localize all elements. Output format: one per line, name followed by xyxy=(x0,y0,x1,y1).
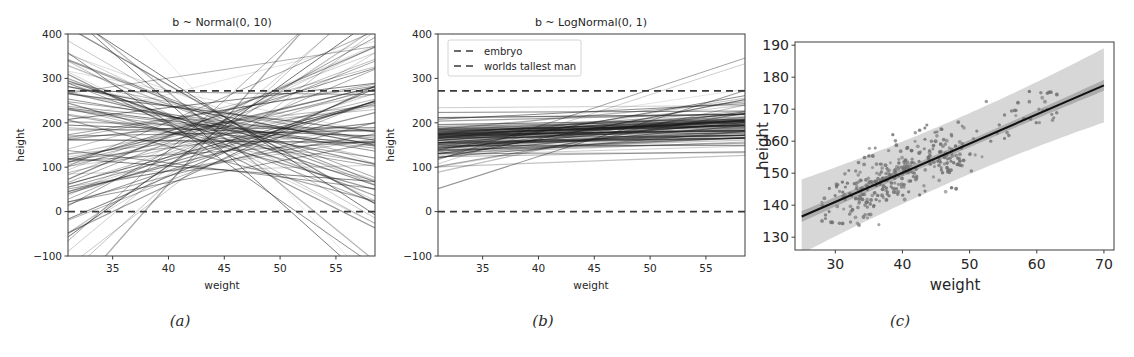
scatter-point xyxy=(893,169,897,173)
scatter-point xyxy=(914,140,917,143)
scatter-point xyxy=(1040,96,1044,100)
prior-lines-lognormal xyxy=(438,58,745,189)
svg-text:50: 50 xyxy=(643,262,656,274)
svg-text:100: 100 xyxy=(412,161,432,173)
scatter-point xyxy=(946,157,949,160)
scatter-point xyxy=(887,194,890,197)
scatter-point xyxy=(970,169,974,173)
scatter-point xyxy=(939,161,942,164)
panel-a-x-ticks: 3540455055 xyxy=(106,256,343,274)
svg-text:70: 70 xyxy=(1095,256,1113,272)
panel-b-legend[interactable]: embryo worlds tallest man xyxy=(448,40,581,76)
scatter-point xyxy=(918,129,922,133)
svg-text:50: 50 xyxy=(961,256,979,272)
scatter-point xyxy=(849,210,853,214)
legend-label-embryo: embryo xyxy=(484,46,522,57)
scatter-point xyxy=(923,168,927,172)
scatter-point xyxy=(854,197,857,200)
scatter-point xyxy=(968,153,972,157)
caption-b: (b) xyxy=(483,312,603,330)
scatter-point xyxy=(876,194,880,198)
scatter-point xyxy=(835,205,839,209)
panel-a-title: b ~ Normal(0, 10) xyxy=(172,16,272,29)
scatter-point xyxy=(972,137,975,140)
scatter-point xyxy=(844,185,847,188)
scatter-point xyxy=(1055,111,1059,115)
scatter-point xyxy=(838,190,841,193)
scatter-point xyxy=(864,200,868,204)
panel-c-ylabel: height xyxy=(756,122,772,170)
svg-text:130: 130 xyxy=(762,229,789,245)
scatter-point xyxy=(867,176,871,180)
scatter-point xyxy=(958,152,962,156)
scatter-point xyxy=(1052,116,1055,119)
scatter-point xyxy=(897,158,900,161)
scatter-point xyxy=(950,186,954,190)
scatter-point xyxy=(866,198,869,201)
prior-line xyxy=(438,155,745,166)
scatter-point xyxy=(866,216,869,219)
scatter-point xyxy=(867,213,870,216)
scatter-point xyxy=(958,157,962,161)
panel-c-plot: 130140150160170180190 3040506070 weight … xyxy=(756,0,1134,300)
scatter-point xyxy=(885,198,889,202)
scatter-point xyxy=(944,143,947,146)
scatter-point xyxy=(854,215,858,219)
scatter-point xyxy=(1055,93,1059,97)
scatter-point xyxy=(1014,114,1017,117)
scatter-point xyxy=(854,169,857,172)
scatter-point xyxy=(935,134,939,138)
scatter-point xyxy=(1028,90,1031,93)
scatter-point xyxy=(901,194,904,197)
scatter-point xyxy=(909,179,912,182)
scatter-point xyxy=(872,205,875,208)
panel-b-title: b ~ LogNormal(0, 1) xyxy=(535,16,647,29)
panel-a: b ~ Normal(0, 10) −1000100200300400 3540… xyxy=(0,0,378,300)
scatter-point xyxy=(1003,113,1006,116)
svg-text:170: 170 xyxy=(762,101,789,117)
scatter-point xyxy=(897,161,901,165)
scatter-point xyxy=(939,142,943,146)
scatter-point xyxy=(939,150,943,154)
scatter-point xyxy=(891,133,894,136)
panel-c: 130140150160170180190 3040506070 weight … xyxy=(756,0,1134,300)
scatter-point xyxy=(820,219,824,223)
svg-text:45: 45 xyxy=(588,262,601,274)
scatter-point xyxy=(918,160,921,163)
scatter-point xyxy=(1039,91,1042,94)
scatter-point xyxy=(933,165,936,168)
scatter-point xyxy=(856,206,860,210)
scatter-point xyxy=(874,198,877,201)
scatter-point xyxy=(958,163,962,167)
scatter-point xyxy=(859,179,863,183)
scatter-point xyxy=(878,199,881,202)
svg-text:400: 400 xyxy=(412,28,432,40)
svg-text:400: 400 xyxy=(42,28,62,40)
scatter-point xyxy=(866,206,869,209)
scatter-point xyxy=(1049,90,1053,94)
scatter-point xyxy=(886,190,889,193)
scatter-point xyxy=(942,138,946,142)
scatter-point xyxy=(1038,121,1041,124)
scatter-point xyxy=(843,172,847,176)
scatter-point xyxy=(880,166,884,170)
panel-b-xlabel: weight xyxy=(573,279,608,291)
scatter-point xyxy=(903,198,907,202)
scatter-point xyxy=(900,185,903,188)
scatter-point xyxy=(1035,121,1038,124)
scatter-point xyxy=(884,163,888,167)
svg-text:35: 35 xyxy=(106,262,119,274)
scatter-point xyxy=(863,193,867,197)
svg-text:0: 0 xyxy=(425,205,432,217)
legend-label-tallest-man: worlds tallest man xyxy=(484,61,576,72)
scatter-point xyxy=(881,188,885,192)
scatter-point xyxy=(952,161,955,164)
scatter-point xyxy=(849,204,853,208)
svg-text:200: 200 xyxy=(412,117,432,129)
panel-a-y-ticks: −1000100200300400 xyxy=(33,28,68,262)
scatter-point xyxy=(945,161,949,165)
scatter-point xyxy=(890,181,894,185)
scatter-point xyxy=(948,146,951,149)
scatter-point xyxy=(1046,91,1049,94)
scatter-point xyxy=(841,222,845,226)
